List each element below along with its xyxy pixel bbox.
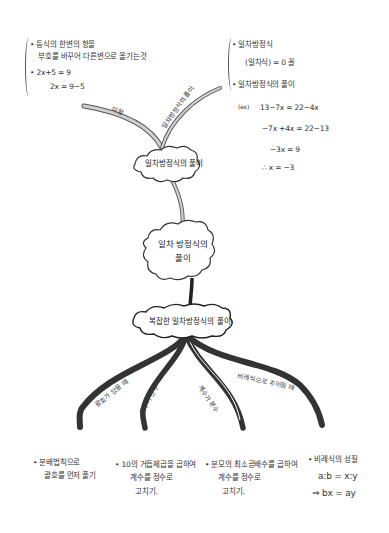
upper-node-label: 일차방정식의 풀이	[134, 159, 214, 169]
note-fraction-3: 고치기.	[222, 487, 245, 497]
note-transposition-example-1: 2x+5 = 9	[30, 68, 71, 78]
note-transposition-example-2: 2x = 9−5	[50, 82, 85, 92]
mind-map-branches	[0, 0, 389, 533]
note-decimal-1: 10의 거듭제곱을 곱하여	[115, 460, 196, 470]
central-node-line-1: 일차 방정식의	[148, 239, 218, 250]
note-linear-eq-def-form: (일차식) = 0 꼴	[245, 58, 295, 68]
note-proportion-1: 비례식의 성질	[308, 455, 357, 465]
note-example-prefix: (ex)	[238, 103, 249, 111]
note-parentheses-1: 분배법칙으로	[33, 458, 80, 468]
note-linear-eq-solve-title: 일차방정식의 풀이	[232, 80, 295, 90]
note-proportion-2: a:b = x:y	[318, 470, 357, 482]
note-decimal-2: 계수를 정수로	[130, 473, 173, 483]
note-decimal-3: 고치기.	[135, 487, 158, 497]
note-fraction-2: 계수를 정수로	[218, 473, 261, 483]
note-fraction-1: 분모의 최소공배수를 곱하여	[205, 460, 297, 470]
note-example-step-2: −7x +4x = 22−13	[262, 124, 329, 134]
note-proportion-3: ⇒ bx = ay	[312, 487, 356, 499]
note-example-step-4: ∴ x = −3	[262, 163, 294, 173]
note-linear-eq-def-title: 일차방정식	[232, 40, 272, 50]
note-parentheses-2: 괄호를 먼저 풀기	[44, 471, 96, 481]
note-transposition-def-2: 부호를 바꾸어 다른변으로 옮기는것	[38, 52, 147, 62]
note-example-step-1: 13−7x = 22−4x	[260, 103, 319, 113]
note-example-step-3: −3x = 9	[270, 145, 300, 155]
note-transposition-def-1: 등식의 한변의 항을	[30, 40, 95, 50]
lower-node-label: 복잡한 일차방정식의 풀이	[134, 317, 246, 327]
central-node-line-2: 풀이	[148, 253, 218, 264]
